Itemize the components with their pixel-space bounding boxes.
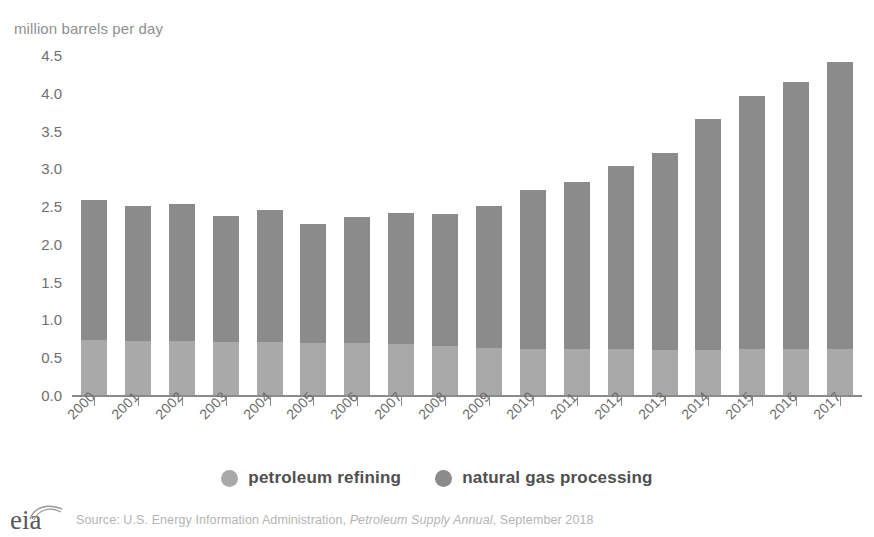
bar-2005[interactable]	[300, 56, 326, 396]
source-note: Source: U.S. Energy Information Administ…	[76, 513, 594, 527]
bar-2014[interactable]	[695, 56, 721, 396]
bar-segment-natural-gas-processing	[81, 200, 107, 341]
bar-segment-petroleum-refining	[213, 342, 239, 396]
bar-2017[interactable]	[827, 56, 853, 396]
bar-segment-natural-gas-processing	[432, 214, 458, 346]
bar-segment-natural-gas-processing	[300, 224, 326, 343]
y-axis: 4.54.03.53.02.52.01.51.00.50.0	[0, 0, 62, 537]
y-axis-tick-label: 1.5	[10, 273, 62, 290]
legend-swatch-icon	[435, 470, 452, 487]
bar-segment-natural-gas-processing	[695, 119, 721, 350]
legend-item-natural-gas-processing[interactable]: natural gas processing	[435, 468, 653, 488]
y-axis-tick-label: 2.5	[10, 198, 62, 215]
plot-area	[72, 56, 862, 396]
bar-segment-natural-gas-processing	[652, 153, 678, 350]
bar-segment-petroleum-refining	[81, 340, 107, 396]
eia-logo-icon: eia	[10, 503, 68, 537]
bar-2012[interactable]	[608, 56, 634, 396]
bar-segment-petroleum-refining	[169, 341, 195, 396]
bar-segment-natural-gas-processing	[608, 166, 634, 350]
bar-segment-natural-gas-processing	[388, 213, 414, 344]
bar-2011[interactable]	[564, 56, 590, 396]
bar-2013[interactable]	[652, 56, 678, 396]
bar-segment-petroleum-refining	[257, 342, 283, 396]
legend-label: petroleum refining	[248, 468, 401, 488]
bar-segment-natural-gas-processing	[564, 182, 590, 349]
bar-2006[interactable]	[344, 56, 370, 396]
source-prefix: Source: U.S. Energy Information Administ…	[76, 513, 350, 527]
y-axis-tick-label: 3.0	[10, 160, 62, 177]
y-axis-tick-label: 0.5	[10, 349, 62, 366]
bar-segment-natural-gas-processing	[827, 62, 853, 349]
x-axis: 2000200120022003200420052006200720082009…	[72, 397, 862, 457]
bar-segment-natural-gas-processing	[213, 216, 239, 341]
bar-segment-petroleum-refining	[125, 341, 151, 396]
bar-segment-natural-gas-processing	[476, 206, 502, 348]
bar-2002[interactable]	[169, 56, 195, 396]
y-axis-tick-label: 4.0	[10, 84, 62, 101]
bar-2001[interactable]	[125, 56, 151, 396]
chart-footer: eia Source: U.S. Energy Information Admi…	[0, 502, 874, 537]
bar-2009[interactable]	[476, 56, 502, 396]
bar-segment-natural-gas-processing	[344, 217, 370, 343]
source-publication: Petroleum Supply Annual	[350, 513, 493, 527]
bar-segment-natural-gas-processing	[169, 204, 195, 341]
bar-segment-natural-gas-processing	[783, 82, 809, 349]
bar-2007[interactable]	[388, 56, 414, 396]
bar-segment-natural-gas-processing	[520, 190, 546, 349]
bar-2015[interactable]	[739, 56, 765, 396]
bar-2004[interactable]	[257, 56, 283, 396]
bar-segment-natural-gas-processing	[125, 206, 151, 341]
bar-segment-natural-gas-processing	[739, 96, 765, 349]
y-axis-tick-label: 3.5	[10, 122, 62, 139]
bar-2003[interactable]	[213, 56, 239, 396]
chart-figure: million barrels per day 4.54.03.53.02.52…	[0, 0, 874, 537]
bar-2000[interactable]	[81, 56, 107, 396]
y-axis-tick-label: 2.0	[10, 235, 62, 252]
bar-segment-natural-gas-processing	[257, 210, 283, 342]
eia-swoosh-icon	[28, 503, 68, 521]
y-axis-tick-label: 0.0	[10, 387, 62, 404]
legend-label: natural gas processing	[462, 468, 653, 488]
bar-2008[interactable]	[432, 56, 458, 396]
y-axis-tick-label: 1.0	[10, 311, 62, 328]
bar-2010[interactable]	[520, 56, 546, 396]
source-suffix: , September 2018	[493, 513, 594, 527]
y-axis-tick-label: 4.5	[10, 47, 62, 64]
chart-legend: petroleum refining natural gas processin…	[0, 468, 874, 488]
legend-swatch-icon	[221, 470, 238, 487]
bar-2016[interactable]	[783, 56, 809, 396]
legend-item-petroleum-refining[interactable]: petroleum refining	[221, 468, 401, 488]
